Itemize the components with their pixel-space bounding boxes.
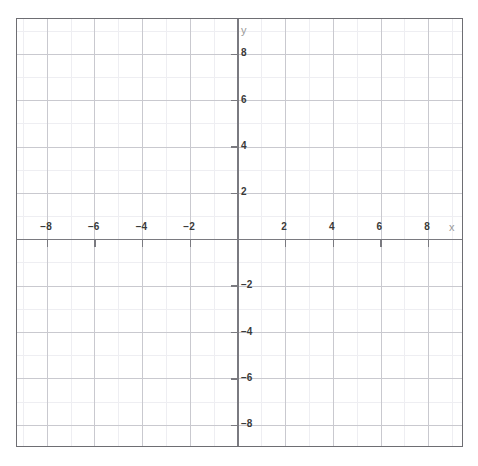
x-tick-label: 8 — [424, 221, 430, 232]
plot-frame — [16, 18, 463, 447]
axis-lines — [17, 19, 463, 447]
y-tick-label: −4 — [241, 326, 252, 337]
x-tick-label: 6 — [377, 221, 383, 232]
y-tick-label: 8 — [241, 47, 247, 58]
x-tick-label: −4 — [136, 221, 147, 232]
chart-canvas: · · · · · · · · · · · · −8−6−4−224688642… — [0, 0, 478, 466]
x-axis-name: x — [449, 221, 455, 233]
y-tick-label: 6 — [241, 94, 247, 105]
y-tick-label: −8 — [241, 418, 252, 429]
x-tick-label: −8 — [40, 221, 51, 232]
y-axis-name: y — [241, 24, 247, 36]
y-tick-label: −6 — [241, 372, 252, 383]
y-tick-label: 4 — [241, 140, 247, 151]
x-tick-label: 4 — [329, 221, 335, 232]
y-tick-label: −2 — [241, 279, 252, 290]
clipped-caption: · · · · · · · · · · · · — [0, 0, 478, 5]
x-tick-label: 2 — [281, 221, 287, 232]
x-tick-label: −2 — [183, 221, 194, 232]
y-tick-label: 2 — [241, 186, 247, 197]
x-tick-label: −6 — [88, 221, 99, 232]
